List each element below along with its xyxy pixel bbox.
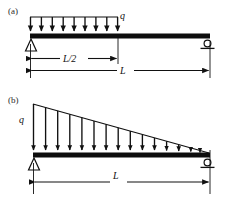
panel-b-group xyxy=(29,104,215,194)
panel-a-group xyxy=(26,17,215,78)
uniform-load-arrows-a xyxy=(31,17,118,31)
pin-support-b xyxy=(29,158,40,170)
beam-diagram-svg xyxy=(0,0,227,203)
beam-b xyxy=(33,153,210,158)
beam-loading-figure: (a) (b) q q L/2 L L xyxy=(0,0,227,203)
roller-support-a xyxy=(201,40,215,48)
beam-a xyxy=(30,34,210,39)
roller-support-b xyxy=(201,159,215,167)
load-hypotenuse-b xyxy=(33,104,209,153)
pin-support-a xyxy=(26,39,37,51)
